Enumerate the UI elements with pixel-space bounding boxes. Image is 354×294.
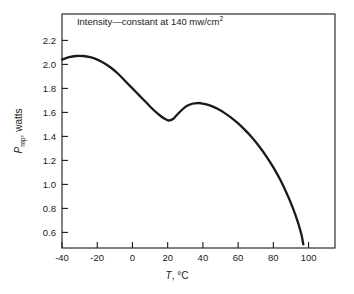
chart-figure: 0.60.81.01.21.41.61.82.02.2 -40-20020406… bbox=[0, 0, 354, 294]
y-tick-label: 1.6 bbox=[43, 107, 56, 118]
x-tick-label: 0 bbox=[130, 252, 135, 263]
x-tick-label: -40 bbox=[55, 252, 69, 263]
y-tick-label: 1.8 bbox=[43, 83, 56, 94]
y-tick-label: 0.6 bbox=[43, 227, 56, 238]
x-tick-label: -20 bbox=[90, 252, 104, 263]
y-tick-label: 1.2 bbox=[43, 155, 56, 166]
x-tick-label: 60 bbox=[233, 252, 244, 263]
y-tick-label: 0.8 bbox=[43, 203, 56, 214]
y-tick-label: 1.0 bbox=[43, 179, 56, 190]
y-tick-label: 1.4 bbox=[43, 131, 56, 142]
chart-svg: 0.60.81.01.21.41.61.82.02.2 -40-20020406… bbox=[0, 0, 354, 294]
y-axis-tick-labels: 0.60.81.01.21.41.61.82.02.2 bbox=[43, 35, 56, 238]
x-tick-label: 100 bbox=[301, 252, 317, 263]
x-tick-label: 20 bbox=[162, 252, 173, 263]
chart-annotation: Intensity—constant at 140 mw/cm2 bbox=[77, 15, 224, 27]
x-tick-label: 40 bbox=[198, 252, 209, 263]
y-tick-label: 2.0 bbox=[43, 59, 56, 70]
y-tick-label: 2.2 bbox=[43, 35, 56, 46]
x-axis-title: T, °C bbox=[166, 270, 189, 281]
x-tick-label: 80 bbox=[268, 252, 279, 263]
